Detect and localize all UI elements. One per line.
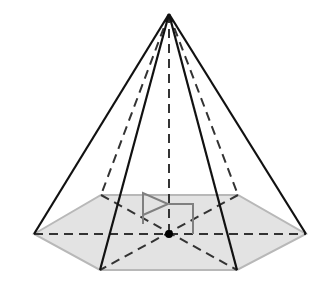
hexagonal-pyramid-diagram [0,0,323,288]
center-point [165,230,173,238]
